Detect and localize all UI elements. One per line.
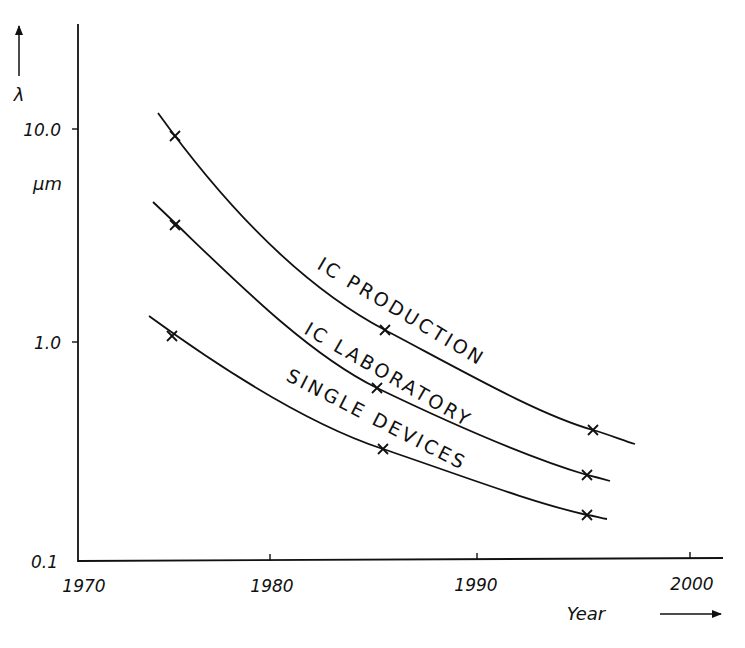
y-axis-symbol: λ: [13, 84, 25, 105]
x-tick-label-1970: 1970: [62, 576, 105, 596]
marker-production-1995: [588, 425, 598, 435]
curve-ic-production: [158, 113, 635, 444]
y-tick-label-10: 10.0: [23, 120, 61, 140]
x-tick-label-1990: 1990: [454, 575, 497, 595]
x-axis: 1970 1980 1990 2000 Year: [62, 552, 723, 624]
chart-canvas: 10.0 1.0 0.1 µm λ 1970 1980 1990 2000 Ye…: [0, 0, 745, 648]
marker-production-1975: [170, 131, 180, 141]
marker-single-1985: [378, 444, 388, 454]
marker-production-1985: [380, 325, 390, 335]
marker-laboratory-1975: [170, 220, 180, 230]
data-markers: [167, 131, 598, 520]
y-tick-label-1: 1.0: [34, 333, 61, 353]
y-tick-label-01: 0.1: [31, 552, 58, 572]
x-tick-label-1980: 1980: [250, 576, 293, 596]
y-unit-label: µm: [32, 173, 62, 194]
x-tick-label-2000: 2000: [670, 574, 713, 594]
marker-laboratory-1985: [372, 383, 382, 393]
curve-ic-laboratory: [153, 202, 610, 481]
y-axis: 10.0 1.0 0.1 µm λ: [13, 24, 78, 572]
x-axis-title: Year: [567, 603, 607, 624]
